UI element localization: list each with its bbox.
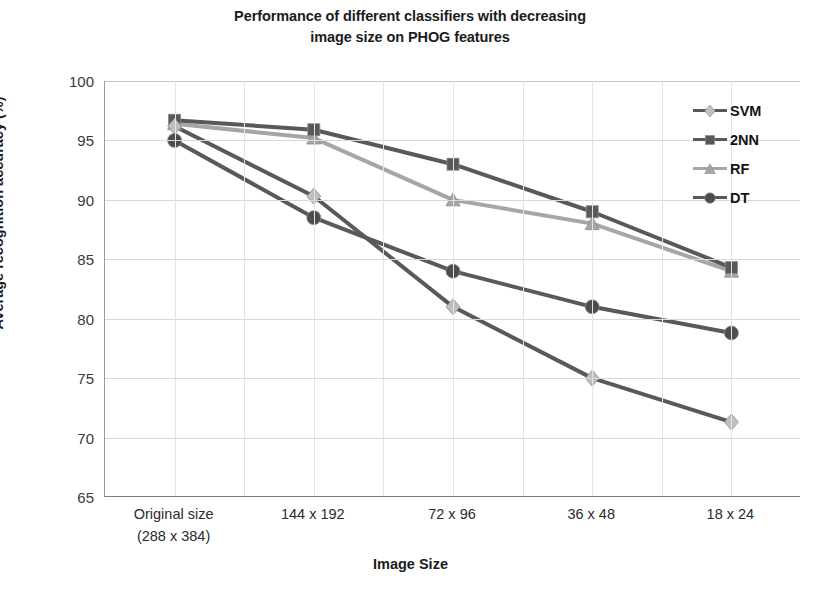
legend-swatch-icon <box>693 104 727 118</box>
x-axis-tick-label: 18 x 24 <box>655 504 805 526</box>
legend-label: RF <box>730 161 749 177</box>
legend-marker-icon <box>704 192 716 204</box>
gridline-vertical <box>592 81 593 496</box>
legend-item-svm[interactable]: SVM <box>693 96 813 125</box>
y-axis-tick-label: 100 <box>48 73 94 90</box>
y-axis-tick-label: 90 <box>48 191 94 208</box>
legend-swatch-icon <box>693 133 727 147</box>
gridline-vertical <box>383 81 384 496</box>
x-axis-tick-label: 72 x 96 <box>377 504 527 526</box>
x-axis-tick-label-line: 36 x 48 <box>516 504 666 526</box>
legend-label: DT <box>730 190 749 206</box>
chart-legend: SVM2NNRFDT <box>693 96 813 212</box>
chart-title-line-1: Performance of different classifiers wit… <box>110 6 710 27</box>
data-point-marker <box>705 163 716 173</box>
x-axis-tick-label-line: 72 x 96 <box>377 504 527 526</box>
gridline-vertical <box>175 81 176 496</box>
x-axis-tick-label-line: (288 x 384) <box>99 526 249 548</box>
y-axis-tick-label: 70 <box>48 429 94 446</box>
y-axis-tick-label: 95 <box>48 132 94 149</box>
chart-title: Performance of different classifiers wit… <box>110 6 710 48</box>
data-point-marker <box>706 135 715 144</box>
gridline-vertical <box>523 81 524 496</box>
gridline-vertical <box>244 81 245 496</box>
x-axis-tick-label: 36 x 48 <box>516 504 666 526</box>
gridline-vertical <box>662 81 663 496</box>
x-axis-tick-label-line: 18 x 24 <box>655 504 805 526</box>
legend-swatch-icon <box>693 191 727 205</box>
chart-title-line-2: image size on PHOG features <box>110 27 710 48</box>
legend-marker-icon <box>704 163 716 175</box>
data-point-marker <box>705 105 716 117</box>
legend-label: 2NN <box>730 132 759 148</box>
legend-marker-icon <box>704 105 716 117</box>
x-axis-tick-label: Original size(288 x 384) <box>99 504 249 548</box>
chart-container: Performance of different classifiers wit… <box>0 0 821 611</box>
x-axis-title: Image Size <box>0 556 821 572</box>
legend-item-2nn[interactable]: 2NN <box>693 125 813 154</box>
legend-label: SVM <box>730 103 761 119</box>
gridline-vertical <box>453 81 454 496</box>
legend-item-rf[interactable]: RF <box>693 154 813 183</box>
x-axis-tick-label-line: Original size <box>99 504 249 526</box>
y-axis-tick-label: 75 <box>48 370 94 387</box>
gridline-vertical <box>314 81 315 496</box>
data-point-marker <box>705 192 716 203</box>
y-axis-tick-label: 80 <box>48 310 94 327</box>
y-axis-title: Average recognition accuracy (%) <box>0 0 6 443</box>
legend-item-dt[interactable]: DT <box>693 183 813 212</box>
legend-swatch-icon <box>693 162 727 176</box>
legend-marker-icon <box>704 134 716 146</box>
x-axis-tick-label-line: 144 x 192 <box>238 504 388 526</box>
y-axis-tick-label: 85 <box>48 251 94 268</box>
x-axis-tick-label: 144 x 192 <box>238 504 388 526</box>
y-axis-tick-label: 65 <box>48 489 94 506</box>
